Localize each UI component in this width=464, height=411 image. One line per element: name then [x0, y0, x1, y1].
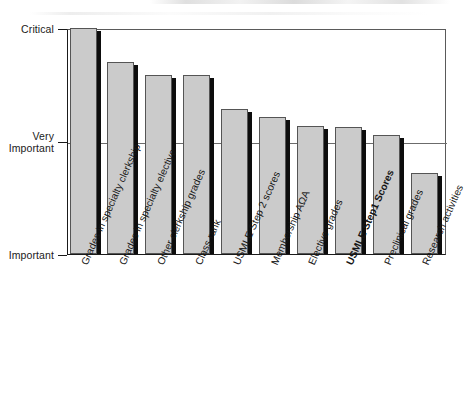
x-axis-label: Membership AΩA	[269, 189, 312, 267]
x-axis-label: Elective grades	[306, 198, 345, 267]
x-axis-label: Class rank	[193, 218, 223, 267]
x-axis-labels: Grades in specialty clerkshipGrades in s…	[0, 0, 464, 411]
x-axis-label: Preclinical grades	[382, 188, 425, 267]
x-axis-label: Research activities	[420, 183, 464, 266]
chart-figure: Critical Very Important Important Grades…	[0, 0, 464, 411]
